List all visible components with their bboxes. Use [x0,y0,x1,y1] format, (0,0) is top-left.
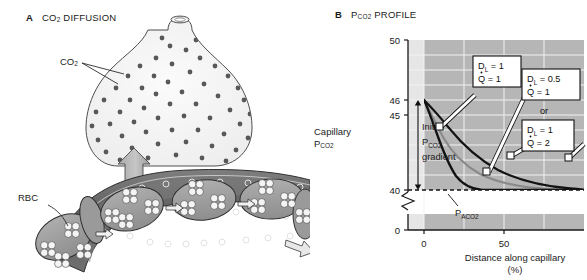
callout-dl1-q1[interactable]: DL = 1 Q = 1 [473,56,521,87]
callout-3-line2: Q = 2 [527,138,550,148]
panel-b-title-sub: CO2 [358,13,372,20]
y-tick-0: 0 [395,225,400,236]
paco2-leader-line [448,194,458,206]
callout-1-line2: Q = 1 [478,74,501,84]
q-dot-icon-1 [481,72,483,74]
callout-dl1-q2[interactable]: DL = 1 Q = 2 [522,120,574,151]
y-tick-50: 50 [389,35,400,46]
alveolus-shape [86,16,252,166]
panel-b-title-rest: PROFILE [371,9,416,20]
capillary-shape [28,169,310,272]
panel-b-header: B PCO2 PROFILE [335,9,416,20]
y-tick-40: 40 [389,185,400,196]
y-tick-45: 45 [389,110,400,121]
callout-dl05-q1[interactable]: DL = 0.5 Q = 1 [522,69,580,100]
x-tick-50: 50 [499,238,510,249]
outflow-arrow-icon [285,240,310,257]
rbc-label: RBC [18,192,38,203]
initial-gradient-line3: gradient [422,152,456,162]
panel-b-title: PCO2 PROFILE [351,9,416,20]
pco2-profile-chart: 50 46 45 40 0 0 50 Initial PCO2 gradient… [312,24,587,274]
q-dot-icon-3 [530,136,532,138]
panel-b-letter: B [335,9,342,20]
callout-or-text: or [540,106,548,116]
y-tick-46: 46 [389,95,400,106]
panel-b-pco2-profile: B PCO2 PROFILE Capillary PCO2 Distance a… [312,0,587,280]
x-tick-0: 0 [421,238,426,249]
q-dot-icon-2 [530,85,532,87]
panel-a-diagram [0,0,310,280]
panel-a-co2-diffusion: A CO2 DIFFUSION CO2 [0,0,310,280]
callout-2-line2: Q = 1 [527,87,550,97]
